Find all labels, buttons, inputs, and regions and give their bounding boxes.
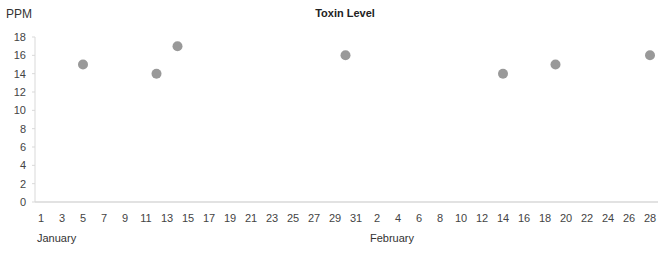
x-tick-label: 2: [374, 212, 380, 224]
x-tick-label: 14: [497, 212, 509, 224]
y-tick-label: 8: [20, 123, 26, 135]
x-tick-label: 15: [182, 212, 194, 224]
x-tick-label: 6: [416, 212, 422, 224]
x-tick-label: 26: [623, 212, 635, 224]
x-tick-label: 1: [38, 212, 44, 224]
x-tick-label: 10: [455, 212, 467, 224]
x-tick-label: 28: [644, 212, 656, 224]
x-tick-label: 25: [287, 212, 299, 224]
x-tick-label: 11: [140, 212, 151, 224]
data-point: [498, 69, 508, 79]
x-tick-label: 27: [308, 212, 320, 224]
y-tick-label: 18: [14, 31, 26, 43]
x-tick-label: 22: [581, 212, 593, 224]
x-tick-label: 12: [476, 212, 488, 224]
scatter-plot: 0246810121416181357911131517192123252729…: [0, 0, 670, 260]
x-tick-label: 5: [80, 212, 86, 224]
data-point: [645, 50, 655, 60]
data-point: [152, 69, 162, 79]
y-tick-label: 16: [14, 49, 26, 61]
month-label-february: February: [370, 232, 415, 244]
x-tick-label: 7: [101, 212, 107, 224]
x-tick-label: 31: [350, 212, 362, 224]
y-tick-label: 14: [14, 68, 26, 80]
data-point: [78, 60, 88, 70]
x-tick-label: 20: [560, 212, 572, 224]
data-point: [551, 60, 561, 70]
x-tick-label: 21: [245, 212, 257, 224]
x-tick-label: 19: [224, 212, 236, 224]
x-tick-label: 17: [203, 212, 215, 224]
x-tick-label: 8: [437, 212, 443, 224]
x-tick-label: 4: [395, 212, 401, 224]
x-tick-label: 18: [539, 212, 551, 224]
y-tick-label: 10: [14, 104, 26, 116]
y-tick-label: 2: [20, 178, 26, 190]
x-tick-label: 23: [266, 212, 278, 224]
y-tick-label: 6: [20, 141, 26, 153]
data-point: [173, 41, 183, 51]
y-tick-label: 12: [14, 86, 26, 98]
y-tick-label: 4: [20, 159, 26, 171]
x-tick-label: 29: [329, 212, 341, 224]
x-tick-label: 9: [122, 212, 128, 224]
x-tick-label: 16: [518, 212, 530, 224]
month-label-january: January: [37, 232, 77, 244]
x-tick-label: 24: [602, 212, 614, 224]
x-tick-label: 13: [161, 212, 173, 224]
x-tick-label: 3: [59, 212, 65, 224]
y-tick-label: 0: [20, 196, 26, 208]
data-point: [341, 50, 351, 60]
